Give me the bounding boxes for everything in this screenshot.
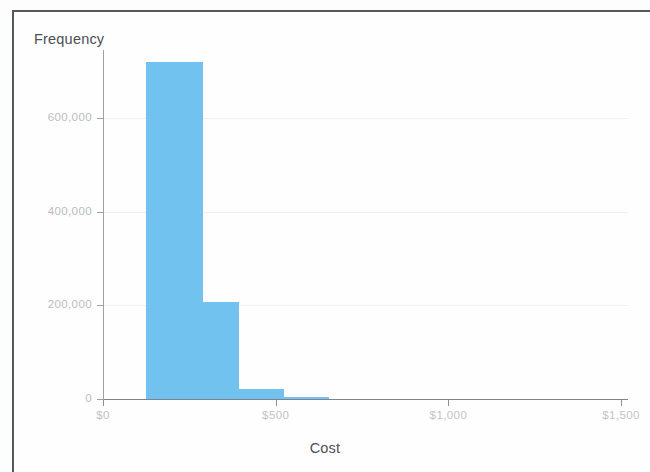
x-axis-tick-label: $500 (262, 409, 289, 421)
y-axis-tick-label-text: 400,000 (6, 205, 92, 217)
histogram-bar[interactable] (203, 302, 239, 399)
x-axis-tick-label: $1,500 (602, 409, 640, 421)
x-axis-tick-mark (103, 400, 104, 406)
x-axis-tick-mark (448, 400, 449, 406)
y-axis-tick-mark (97, 305, 104, 306)
y-axis-title: Frequency (34, 31, 104, 47)
histogram-bar[interactable] (239, 389, 284, 399)
y-axis-tick-label-text: 0 (6, 392, 92, 404)
y-axis-tick-label: 200,000 (0, 298, 92, 312)
y-axis-tick-label: 0 (0, 392, 92, 406)
x-axis-title: Cost (0, 440, 650, 456)
y-axis-tick-label: 600,000 (0, 111, 92, 125)
x-axis-tick-mark (621, 400, 622, 406)
y-axis-tick-label-text: 600,000 (6, 111, 92, 123)
y-axis-tick-mark (97, 118, 104, 119)
y-axis-tick-label: 400,000 (0, 205, 92, 219)
x-axis-tick-mark (276, 400, 277, 406)
y-axis-tick-label-text: 200,000 (6, 298, 92, 310)
page-frame-top-border (12, 10, 650, 12)
chart-screenshot: Frequency 0200,000400,000600,000 $0$500$… (0, 0, 650, 472)
y-axis-line (103, 50, 104, 399)
plot-area (103, 50, 628, 399)
x-axis-tick-label: $1,000 (430, 409, 468, 421)
x-axis-tick-label: $0 (96, 409, 110, 421)
histogram-bar[interactable] (146, 62, 203, 399)
x-axis-line (103, 399, 628, 400)
y-axis-tick-mark (97, 212, 104, 213)
